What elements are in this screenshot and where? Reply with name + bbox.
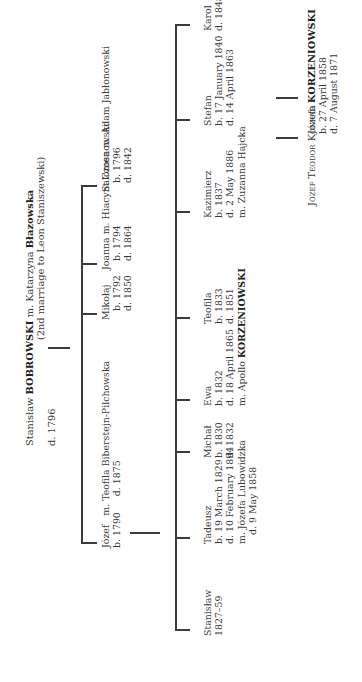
born: b. 1796 [111, 46, 122, 192]
root-second-marriage: (2nd marriage to Leon Staniszewski) [35, 157, 46, 446]
died: d. 14 April 1863 [224, 36, 235, 127]
spouse-died: d. 9 May 1858 [247, 440, 258, 544]
died: d. 1842 [122, 46, 133, 192]
died: d. 1850 [122, 275, 133, 320]
name-line: Józef m. Teofila Biberstejn-Pilchowska [100, 361, 111, 548]
died: d. 1832 [224, 422, 235, 458]
person-joseph-conrad: Józef Teodor Konrad KORZENIOWSKI [306, 9, 317, 206]
connector-tadeusz-jozefa [276, 97, 298, 99]
bracket-gen3-tick-teofila [175, 317, 190, 319]
root-wife-surname: Błazowska [24, 190, 35, 248]
person-stanislaw: Stanisław 1827–59 [202, 590, 224, 636]
person-teofila: Teofila b. 1833 d. 1851 [202, 288, 236, 324]
bracket-gen3-tick-michal [175, 451, 190, 453]
died: d. 7 August 1871 [328, 53, 339, 134]
bracket-gen3-tick-tadeusz [175, 537, 190, 539]
name: Kazimierz [202, 126, 213, 218]
root-death: d. 1796 [46, 157, 57, 446]
root-surname: BOBROWSKI [24, 320, 35, 394]
spouse: m. Zuzanna Hajcka [236, 126, 247, 218]
name: Teofila [202, 288, 213, 324]
bracket-gen3-tick-ewa [175, 399, 190, 401]
root-given-name: Stanisław [24, 395, 35, 446]
bracket-gen2-tick-jozef [81, 542, 97, 544]
connector-ewa-jozef [276, 137, 298, 139]
born: b. 27 April 1858 [317, 53, 328, 134]
person-jozef: Józef m. Teofila Biberstejn-Pilchowska b… [100, 361, 122, 548]
person-stefan: Stefan b. 17 January 1840 d. 14 April 18… [202, 36, 236, 127]
name: Stefan [202, 36, 213, 127]
died: d. 1848 [213, 0, 224, 31]
name: Karol [202, 0, 213, 31]
name-line: Mikołaj [100, 275, 111, 320]
spouse: m. Apollo KORZENIOWSKI [236, 268, 247, 406]
bracket-gen3-tick-stanislaw [175, 629, 190, 631]
connector-jozef-line [130, 532, 160, 534]
died: d. 1851 [224, 288, 235, 324]
family-tree-page: Stanisław BOBROWSKI m. Katarzyna Błazows… [0, 0, 362, 682]
died: d. 1875 [111, 460, 122, 496]
born: b. 1837 [213, 126, 224, 218]
person-kazimierz: Kazimierz b. 1837 d. 2 May 1886 m. Zuzan… [202, 126, 247, 218]
root-ancestor: Stanisław BOBROWSKI m. Katarzyna Błazows… [24, 157, 58, 446]
given-names: Józef Teodor Konrad [306, 103, 317, 206]
bracket-gen3-spine [175, 25, 177, 631]
bracket-gen2-tick-joanna [81, 263, 97, 265]
name-line: Salomea m. Adam Jabłonowski [100, 46, 111, 192]
surname: KORZENIOWSKI [306, 9, 317, 103]
bracket-gen3-tick-karol [175, 24, 190, 26]
born: b. 1833 [213, 288, 224, 324]
name: Stanisław [202, 590, 213, 636]
spouse: m. Józefa Lubowidzka [236, 440, 247, 544]
person-karol: Karol d. 1848 [202, 0, 224, 31]
died: d. 2 May 1886 [224, 126, 235, 218]
spouse-surname: KORZENIOWSKI [236, 268, 247, 358]
dates: 1827–59 [213, 590, 224, 636]
person-mikolaj: Mikołaj b. 1792 d. 1850 [100, 275, 134, 320]
bracket-gen2-spine [81, 186, 83, 544]
bracket-gen3-tick-kazimierz [175, 211, 190, 213]
name: Michał [202, 422, 213, 458]
born: b. 1792 [111, 275, 122, 320]
bracket-gen2-tick-salomea [81, 185, 97, 187]
born: b. 1790 [111, 512, 122, 548]
person-michal: Michał b. 1830 d. 1832 [202, 422, 236, 458]
root-marriage: m. Katarzyna [24, 248, 35, 320]
born: b. 17 January 1840 [213, 36, 224, 127]
born: b. 1830 [213, 422, 224, 458]
connector-root [48, 347, 70, 349]
person-salomea: Salomea m. Adam Jabłonowski b. 1796 d. 1… [100, 46, 134, 192]
bracket-gen3-tick-stefan [175, 119, 190, 121]
bracket-gen2-tick-mikolaj [81, 313, 97, 315]
